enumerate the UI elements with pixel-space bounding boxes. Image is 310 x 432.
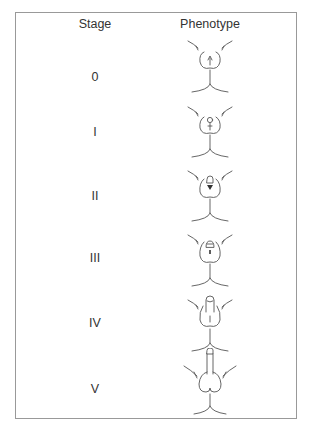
stage-II-icon: [170, 168, 250, 226]
phenotype-drawing-1: [170, 104, 250, 162]
stage-III-icon: [170, 232, 250, 290]
phenotype-drawing-0: [170, 38, 250, 96]
stage-label-3: III: [60, 251, 130, 265]
stage-V-icon: [170, 348, 250, 420]
phenotype-drawing-3: [170, 232, 250, 290]
stage-0-icon: [170, 38, 250, 96]
header-phenotype: Phenotype: [170, 17, 250, 31]
stage-I-icon: [170, 104, 250, 162]
header-stage: Stage: [60, 17, 130, 31]
stage-label-5: V: [60, 382, 130, 396]
phenotype-drawing-2: [170, 168, 250, 226]
stage-label-2: II: [60, 189, 130, 203]
stage-label-1: I: [60, 125, 130, 139]
phenotype-drawing-5: [170, 348, 250, 420]
stage-label-0: 0: [60, 70, 130, 84]
stage-IV-icon: [170, 294, 250, 356]
phenotype-drawing-4: [170, 294, 250, 356]
table-frame: [15, 12, 297, 419]
stage-label-4: IV: [60, 316, 130, 330]
